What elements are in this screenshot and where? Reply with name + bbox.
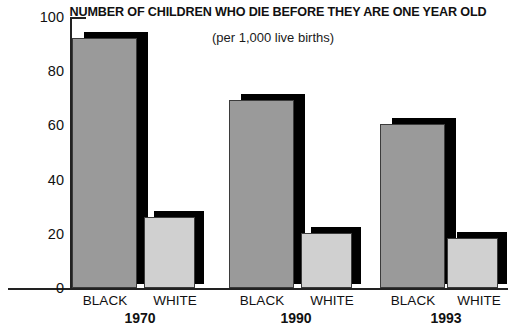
- bar-1993-black: [380, 118, 456, 288]
- y-tick-label-60-wrap: 60: [16, 118, 64, 132]
- bar-1970-white-face: [144, 217, 195, 288]
- group-label-1970: 1970: [96, 310, 184, 326]
- group-label-1990: 1990: [252, 310, 340, 326]
- bar-1990-black-face: [229, 100, 294, 288]
- bar-1993-white-face: [447, 238, 498, 288]
- chart-title: NUMBER OF CHILDREN WHO DIE BEFORE THEY A…: [58, 4, 498, 20]
- y-tick-label-40-wrap: 40: [16, 173, 64, 187]
- x-axis-line: [8, 288, 508, 290]
- y-tick-label-20-wrap: 20: [16, 227, 64, 241]
- bar-chart: NUMBER OF CHILDREN WHO DIE BEFORE THEY A…: [0, 0, 513, 330]
- y-tick-100: [72, 17, 86, 19]
- bar-1993-white: [447, 232, 507, 288]
- y-tick-label-60: 60: [24, 118, 64, 132]
- bar-1990-black: [229, 94, 305, 288]
- y-tick-label-20: 20: [24, 227, 64, 241]
- bar-1970-white: [144, 211, 204, 288]
- y-tick-label-100-wrap: 100: [16, 10, 64, 24]
- bar-1993-black-face: [380, 124, 445, 288]
- cat-label-1993-white: WHITE: [436, 293, 513, 309]
- y-tick-label-100: 100: [24, 10, 64, 24]
- group-label-1993: 1993: [402, 310, 490, 326]
- bar-1970-black-face: [72, 38, 137, 288]
- cat-label-1970-white: WHITE: [132, 293, 218, 309]
- bar-1990-white-face: [301, 233, 352, 288]
- y-tick-label-0-wrap: 0: [16, 281, 64, 295]
- y-tick-label-80-wrap: 80: [16, 64, 64, 78]
- bar-1990-white: [301, 227, 361, 288]
- bar-1970-black: [72, 32, 148, 288]
- y-tick-label-0: 0: [24, 281, 64, 295]
- cat-label-1990-white: WHITE: [289, 293, 375, 309]
- y-tick-label-80: 80: [24, 64, 64, 78]
- y-tick-label-40: 40: [24, 173, 64, 187]
